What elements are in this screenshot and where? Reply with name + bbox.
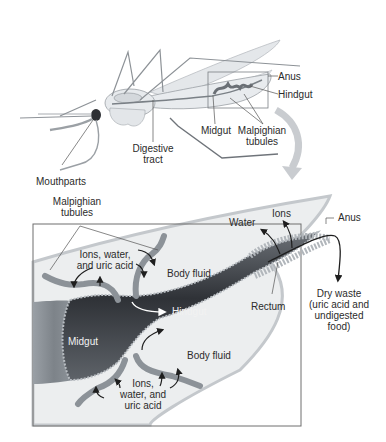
- label-digestive-line2: tract: [128, 154, 178, 165]
- label-dry-waste: Dry waste (uric acid and undigested food…: [308, 288, 370, 332]
- label-hindgut-detail: Hindgut: [172, 306, 206, 317]
- label-malpighian-detail-line2: tubules: [52, 207, 102, 218]
- excretory-system-illustration: [0, 0, 386, 442]
- label-ions-water-uric-bottom-line1: Ions,: [116, 378, 170, 389]
- label-ions-water-uric-top-line2: and uric acid: [72, 260, 138, 271]
- label-dry-waste-line1: Dry waste: [308, 288, 370, 299]
- label-malpighian-detail-line1: Malpighian: [52, 196, 102, 207]
- label-midgut-detail: Midgut: [68, 336, 98, 347]
- label-anus-top: Anus: [278, 71, 301, 82]
- label-malpighian-top: Malpighian tubules: [236, 125, 288, 147]
- label-ions-water-uric-bottom-line3: uric acid: [116, 400, 170, 411]
- label-midgut-top: Midgut: [196, 125, 236, 136]
- label-hindgut-top: Hindgut: [278, 89, 312, 100]
- label-ions: Ions: [272, 208, 291, 219]
- label-ions-water-uric-top-line1: Ions, water,: [72, 249, 138, 260]
- label-malpighian-top-line2: tubules: [236, 136, 288, 147]
- label-malpighian-top-line1: Malpighian: [236, 125, 288, 136]
- label-digestive-line1: Digestive: [128, 143, 178, 154]
- label-malpighian-detail: Malpighian tubules: [52, 196, 102, 218]
- label-ions-water-uric-bottom: Ions, water, and uric acid: [116, 378, 170, 411]
- label-body-fluid-top: Body fluid: [167, 268, 211, 279]
- label-mouthparts: Mouthparts: [36, 176, 86, 187]
- label-water: Water: [229, 217, 255, 228]
- label-rectum: Rectum: [251, 301, 285, 312]
- label-body-fluid-bottom: Body fluid: [187, 350, 231, 361]
- label-anus-detail: Anus: [338, 212, 361, 223]
- label-digestive-tract: Digestive tract: [128, 143, 178, 165]
- label-dry-waste-line3: undigested: [308, 310, 370, 321]
- label-ions-water-uric-top: Ions, water, and uric acid: [72, 249, 138, 271]
- label-dry-waste-line2: (uric acid and: [308, 299, 370, 310]
- label-ions-water-uric-bottom-line2: water, and: [116, 389, 170, 400]
- label-dry-waste-line4: food): [308, 321, 370, 332]
